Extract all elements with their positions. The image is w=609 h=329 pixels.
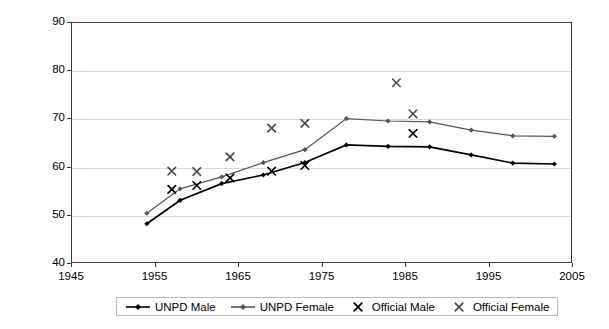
data-point-marker <box>354 303 362 311</box>
x-axis-tick-mark-1945 <box>71 263 72 267</box>
y-axis-tick-label-80: 80 <box>23 64 65 76</box>
data-point-marker <box>219 174 224 179</box>
x-axis-tick-label-1955: 1955 <box>125 271 185 283</box>
x-axis-tick-label-1945: 1945 <box>41 271 101 283</box>
data-point-marker <box>469 127 474 132</box>
data-point-marker <box>455 303 463 311</box>
x-axis-tick-mark-1995 <box>489 263 490 267</box>
data-point-marker <box>219 181 224 186</box>
y-axis-tick-label-60: 60 <box>23 161 65 173</box>
x-axis-tick-mark-1965 <box>238 263 239 267</box>
data-point-marker <box>385 118 390 123</box>
legend-line-diamond-icon <box>125 301 151 313</box>
data-point-marker <box>427 119 432 124</box>
legend-item-label: Official Female <box>473 301 549 313</box>
data-point-marker <box>344 142 349 147</box>
x-axis-tick-mark-1985 <box>405 263 406 267</box>
data-point-marker <box>268 124 276 132</box>
data-point-marker <box>193 182 201 190</box>
series-layer <box>72 23 571 262</box>
data-point-marker <box>427 144 432 149</box>
chart-figure: 4050607080901945195519651975198519952005… <box>0 0 609 329</box>
chart-legend: UNPD MaleUNPD FemaleOfficial MaleOfficia… <box>116 297 558 316</box>
y-axis-tick-label-40: 40 <box>23 257 65 269</box>
data-point-marker <box>193 168 201 176</box>
legend-item-official-male: Official Male <box>348 301 435 313</box>
legend-item-label: Official Male <box>372 301 435 313</box>
legend-item-unpd-female: UNPD Female <box>230 301 334 313</box>
data-point-marker <box>510 160 515 165</box>
data-point-marker <box>240 304 246 310</box>
data-point-marker <box>226 153 234 161</box>
data-point-marker <box>552 134 557 139</box>
series-official-female <box>168 79 417 175</box>
legend-x-marker-icon <box>452 301 466 313</box>
plot-area <box>71 22 572 263</box>
y-axis-tick-label-70: 70 <box>23 112 65 124</box>
x-axis-tick-mark-2005 <box>572 263 573 267</box>
x-axis-tick-label-1995: 1995 <box>459 271 519 283</box>
data-point-marker <box>393 79 401 87</box>
x-axis-tick-mark-1975 <box>322 263 323 267</box>
data-point-marker <box>168 167 176 175</box>
data-point-marker <box>135 304 141 310</box>
x-axis-tick-label-1975: 1975 <box>292 271 352 283</box>
legend-item-label: UNPD Male <box>155 301 216 313</box>
y-axis-tick-label-90: 90 <box>23 16 65 28</box>
data-point-marker <box>226 174 234 182</box>
x-axis-tick-label-1965: 1965 <box>208 271 268 283</box>
series-unpd-female <box>144 116 557 216</box>
data-point-marker <box>168 186 176 194</box>
series-official-male <box>168 130 417 193</box>
series-line <box>147 145 555 224</box>
data-point-marker <box>469 152 474 157</box>
data-point-marker <box>552 161 557 166</box>
legend-line-diamond-icon <box>230 301 256 313</box>
data-point-marker <box>510 133 515 138</box>
data-point-marker <box>409 110 417 118</box>
x-axis-tick-mark-1955 <box>155 263 156 267</box>
data-point-marker <box>261 160 266 165</box>
x-axis-tick-label-2005: 2005 <box>542 271 602 283</box>
series-unpd-male <box>144 142 557 226</box>
x-axis-tick-label-1985: 1985 <box>375 271 435 283</box>
legend-item-label: UNPD Female <box>260 301 334 313</box>
data-point-marker <box>261 172 266 177</box>
legend-item-unpd-male: UNPD Male <box>125 301 216 313</box>
legend-item-official-female: Official Female <box>449 301 549 313</box>
data-point-marker <box>409 130 417 138</box>
y-axis-tick-label-50: 50 <box>23 209 65 221</box>
legend-x-marker-icon <box>351 301 365 313</box>
data-point-marker <box>385 144 390 149</box>
y-axis-tick-mark-40 <box>67 263 71 264</box>
data-point-marker <box>301 120 309 128</box>
series-line <box>147 119 555 214</box>
